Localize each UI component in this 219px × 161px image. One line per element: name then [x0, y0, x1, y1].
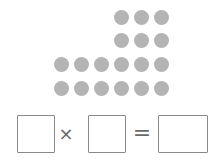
dot	[154, 33, 169, 48]
dot	[154, 10, 169, 25]
dot	[74, 81, 89, 96]
dot	[114, 33, 129, 48]
factor1-answer-box[interactable]	[17, 115, 55, 153]
dot	[134, 33, 149, 48]
dot	[54, 81, 69, 96]
dot	[94, 81, 109, 96]
times-sign: ×	[58, 125, 74, 143]
dot	[94, 57, 109, 72]
dot	[134, 81, 149, 96]
dot	[134, 57, 149, 72]
dot	[54, 57, 69, 72]
product-answer-box[interactable]	[158, 115, 208, 153]
dot	[114, 57, 129, 72]
dot	[114, 10, 129, 25]
equals-sign: =	[132, 124, 152, 142]
dot	[154, 81, 169, 96]
dot	[114, 81, 129, 96]
dot	[134, 10, 149, 25]
dot	[74, 57, 89, 72]
factor2-answer-box[interactable]	[88, 115, 126, 153]
dot	[154, 57, 169, 72]
